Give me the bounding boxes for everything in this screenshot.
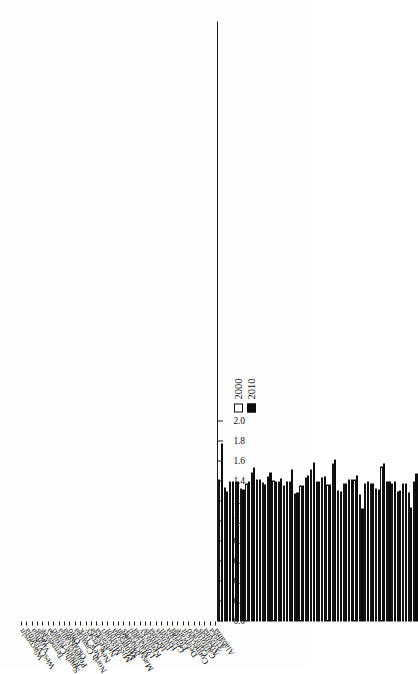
bar-2010 <box>324 476 326 621</box>
category-tick <box>91 621 92 625</box>
category-tick <box>118 621 119 625</box>
bar-2010 <box>388 481 390 621</box>
legend-label-2000: 2000 <box>232 378 245 399</box>
category-tick <box>32 621 33 625</box>
category-tick <box>156 621 157 625</box>
legend-label-2010: 2010 <box>245 378 258 399</box>
category-tick <box>177 621 178 625</box>
legend-item-2010: 2010 <box>245 378 258 412</box>
bar-2010 <box>334 459 336 621</box>
bar-2010 <box>253 467 255 621</box>
bar-2010 <box>318 481 320 621</box>
category-tick <box>150 621 151 625</box>
bar-2010 <box>405 483 407 621</box>
bar-2010 <box>415 473 417 621</box>
bar-2010 <box>394 481 396 621</box>
value-tick <box>218 420 223 421</box>
bar-2010 <box>248 481 250 621</box>
bar-2010 <box>302 485 304 621</box>
bar-2010 <box>226 491 228 621</box>
bar-2010 <box>269 472 271 621</box>
bar-2010 <box>307 475 309 621</box>
category-tick <box>21 621 22 625</box>
plot-area: 0.00.20.40.60.81.01.21.41.61.82.0 Alabam… <box>18 21 218 621</box>
category-tick <box>69 621 70 625</box>
category-tick <box>64 621 65 625</box>
category-tick <box>210 621 211 625</box>
category-tick <box>167 621 168 625</box>
bar-2010 <box>378 489 380 621</box>
bar-2010 <box>351 479 353 621</box>
bar-2010 <box>372 483 374 621</box>
bar-2010 <box>329 484 331 621</box>
category-tick <box>53 621 54 625</box>
category-tick <box>183 621 184 625</box>
bar-2010 <box>367 481 369 621</box>
value-tick-label: 1.6 <box>233 456 244 466</box>
category-tick <box>59 621 60 625</box>
bar-2010 <box>345 483 347 621</box>
category-tick <box>26 621 27 625</box>
category-tick <box>145 621 146 625</box>
bar-2010 <box>286 481 288 621</box>
bar-2010 <box>356 475 358 621</box>
category-tick <box>215 621 216 625</box>
bar-2010 <box>242 489 244 621</box>
bar-2010 <box>275 481 277 621</box>
bar-2010 <box>237 481 239 621</box>
category-tick <box>188 621 189 625</box>
category-tick <box>102 621 103 625</box>
bar-2010 <box>280 478 282 621</box>
legend-swatch-2000 <box>234 403 243 412</box>
bar-2010 <box>383 463 385 621</box>
value-tick <box>218 440 223 441</box>
category-tick <box>37 621 38 625</box>
bar-2010 <box>221 443 223 621</box>
category-tick <box>161 621 162 625</box>
bar-2010 <box>361 508 363 621</box>
category-tick <box>107 621 108 625</box>
value-tick-label: 2.0 <box>233 416 244 426</box>
category-tick <box>86 621 87 625</box>
category-tick <box>172 621 173 625</box>
bar-2010 <box>399 490 401 621</box>
category-tick <box>96 621 97 625</box>
category-tick <box>134 621 135 625</box>
bar-2010 <box>340 491 342 621</box>
category-tick <box>75 621 76 625</box>
legend: 2000 2010 <box>232 378 258 412</box>
bar-2010 <box>232 481 234 621</box>
category-tick <box>194 621 195 625</box>
category-tick <box>123 621 124 625</box>
bar-2010 <box>313 462 315 621</box>
bar-2010 <box>259 479 261 621</box>
category-tick <box>140 621 141 625</box>
category-tick <box>48 621 49 625</box>
category-tick <box>204 621 205 625</box>
value-tick-label: 1.8 <box>233 436 244 446</box>
category-tick <box>199 621 200 625</box>
bar-2010 <box>291 469 293 621</box>
bar-2010 <box>264 484 266 621</box>
category-tick <box>80 621 81 625</box>
bar-2010 <box>296 492 298 621</box>
category-tick <box>129 621 130 625</box>
legend-swatch-2010 <box>247 403 256 412</box>
category-tick <box>113 621 114 625</box>
category-tick <box>42 621 43 625</box>
bar-2010 <box>410 507 412 621</box>
legend-item-2000: 2000 <box>232 378 245 412</box>
